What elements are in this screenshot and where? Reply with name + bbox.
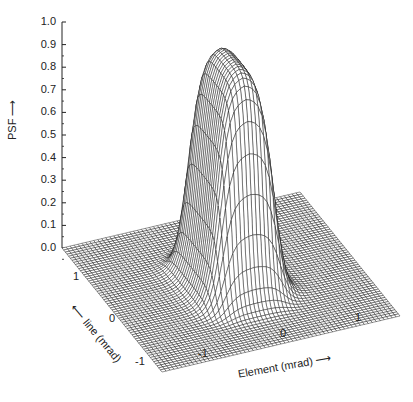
y-tick-1: 1 <box>73 270 79 282</box>
x-tick-0: 0 <box>280 327 286 339</box>
x-tick-neg1: -1 <box>198 347 208 359</box>
y-tick-0: 0 <box>109 312 115 324</box>
y-tick-neg1: -1 <box>135 355 145 367</box>
z-tick: 0.7 <box>30 83 56 95</box>
x-tick-1: 1 <box>355 311 361 323</box>
z-tick: 1.0 <box>30 15 56 27</box>
z-tick: 0.4 <box>30 151 56 163</box>
z-tick: 0.2 <box>30 196 56 208</box>
z-tick: 0.1 <box>30 218 56 230</box>
z-tick: 0.8 <box>30 60 56 72</box>
z-tick: 0.6 <box>30 105 56 117</box>
z-tick: 0.0 <box>30 241 56 253</box>
z-axis-label-text: PSF <box>6 119 18 140</box>
z-tick: 0.3 <box>30 173 56 185</box>
arrow-right-icon: ⟶ <box>315 352 333 367</box>
z-tick: 0.5 <box>30 128 56 140</box>
z-tick: 0.9 <box>30 38 56 50</box>
arrow-up-icon: ⟶ <box>6 100 18 116</box>
z-axis-label: PSF ⟶ <box>6 100 19 140</box>
surface-plot <box>0 0 413 402</box>
